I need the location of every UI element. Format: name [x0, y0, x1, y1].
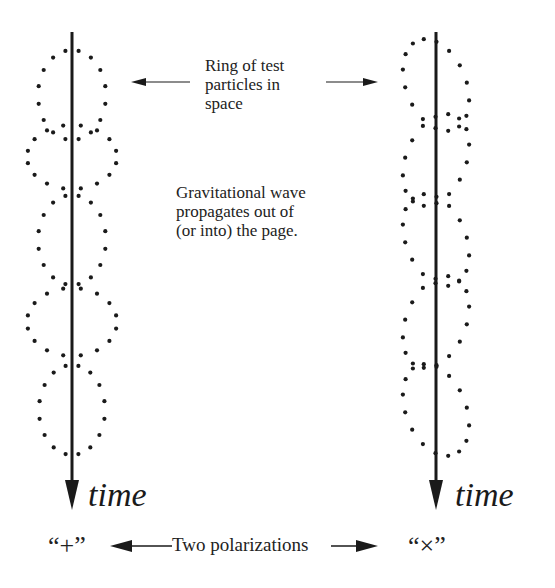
test-particle-dot [464, 114, 468, 118]
test-particle-dot [465, 160, 469, 164]
test-particle-dot [37, 229, 41, 233]
test-particle-dot [458, 218, 462, 222]
test-particle-dot [107, 301, 111, 305]
test-particle-dot [465, 236, 469, 240]
test-particle-dot [103, 102, 107, 106]
time-arrowhead-left [65, 480, 79, 510]
plus-column [26, 32, 118, 510]
test-particle-dot [447, 374, 451, 378]
test-particle-dot [114, 327, 118, 331]
test-particle-dot [422, 192, 426, 196]
test-particle-dot [447, 354, 451, 358]
test-particle-dot [464, 289, 468, 293]
wave-label-line-2: propagates out of [176, 202, 306, 221]
test-particle-dot [63, 282, 67, 286]
test-particle-dot [421, 117, 425, 121]
test-particle-dot [76, 364, 80, 368]
test-particle-dot [421, 442, 425, 446]
test-particle-dot [410, 138, 414, 142]
test-particle-dot [102, 417, 106, 421]
test-particle-dot [64, 452, 68, 456]
test-particle-dot [97, 433, 101, 437]
test-particle-dot [77, 194, 81, 198]
test-particle-dot [433, 451, 437, 455]
test-particle-dot [26, 161, 30, 165]
test-particle-dot [114, 149, 118, 153]
test-particle-dot [37, 84, 41, 88]
ring-label-line-3: space [205, 94, 284, 113]
test-particle-dot [42, 263, 46, 267]
test-particle-dot [52, 371, 56, 375]
test-particle-dot [79, 353, 83, 357]
test-particle-dot [434, 201, 438, 205]
test-particle-dot [467, 143, 471, 147]
test-particle-dot [410, 300, 414, 304]
test-particle-dot [95, 182, 99, 186]
test-particle-dot [433, 126, 437, 130]
test-particle-dot [26, 313, 30, 317]
test-particle-dot [434, 40, 438, 44]
test-particle-dot [446, 112, 450, 116]
test-particle-dot [403, 410, 407, 414]
test-particle-dot [89, 201, 93, 205]
test-particle-dot [37, 102, 41, 106]
test-particle-dot [107, 173, 111, 177]
test-particle-dot [401, 68, 405, 72]
test-particle-dot [88, 445, 92, 449]
test-particle-dot [411, 41, 415, 45]
test-particle-dot [103, 84, 107, 88]
test-particle-dot [458, 63, 462, 67]
test-particle-dot [457, 449, 461, 453]
test-particle-dot [63, 137, 67, 141]
test-particle-dot [410, 258, 414, 262]
wave-label: Gravitational wave propagates out of (or… [176, 183, 306, 240]
test-particle-dot [457, 124, 461, 128]
test-particle-dot [26, 149, 30, 153]
test-particle-dot [42, 213, 46, 217]
test-particle-dot [433, 115, 437, 119]
ring-arrow-right-head [363, 78, 378, 86]
test-particle-dot [404, 52, 408, 56]
test-particle-dot [403, 85, 407, 89]
test-particle-dot [45, 128, 49, 132]
test-particle-dot [61, 186, 65, 190]
test-particle-dot [103, 247, 107, 251]
test-particle-dot [43, 383, 47, 387]
test-particle-dot [51, 56, 55, 60]
plus-polarization-label: “+” [48, 533, 86, 559]
test-particle-dot [411, 366, 415, 370]
test-particle-dot [401, 335, 405, 339]
test-particle-dot [79, 287, 83, 291]
test-particle-dot [89, 130, 93, 134]
pol-arrow-left-head [110, 540, 132, 552]
test-particle-dot [433, 277, 437, 281]
test-particle-dot [465, 322, 469, 326]
wave-label-line-3: (or into) the page. [176, 221, 306, 240]
test-particle-dot [422, 204, 426, 208]
test-particle-dot [37, 247, 41, 251]
time-label-left: time [88, 478, 147, 512]
test-particle-dot [422, 37, 426, 41]
test-particle-dot [33, 137, 37, 141]
test-particle-dot [458, 340, 462, 344]
time-arrowhead-right [429, 480, 443, 510]
test-particle-dot [52, 445, 56, 449]
test-particle-dot [446, 129, 450, 133]
test-particle-dot [411, 196, 415, 200]
test-particle-dot [38, 417, 42, 421]
test-particle-dot [467, 305, 471, 309]
cross-polarization-label: “×” [408, 533, 446, 559]
test-particle-dot [51, 201, 55, 205]
test-particle-dot [446, 284, 450, 288]
test-particle-dot [98, 213, 102, 217]
test-particle-dot [114, 161, 118, 165]
test-particle-dot [421, 124, 425, 128]
test-particle-dot [467, 98, 471, 102]
test-particle-dot [79, 124, 83, 128]
test-particle-dot [45, 348, 49, 352]
test-particle-dot [447, 192, 451, 196]
test-particle-dot [107, 137, 111, 141]
test-particle-dot [464, 269, 468, 273]
test-particle-dot [42, 118, 46, 122]
test-particle-dot [88, 371, 92, 375]
